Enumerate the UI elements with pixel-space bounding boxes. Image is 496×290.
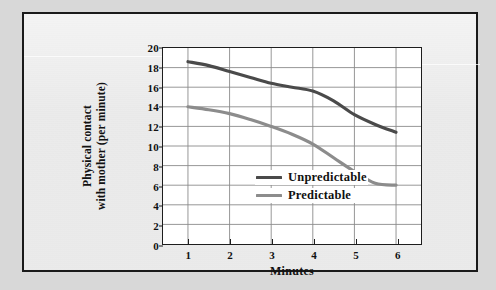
legend-item[interactable]: Unpredictable [255,170,368,185]
x-tick-label: 2 [227,249,233,261]
y-tick-label: 10 [148,141,159,153]
y-tick-label: 20 [148,42,159,54]
line-chart: Physical contact with mother (per minute… [140,42,440,277]
y-tick-mark [159,166,163,167]
y-tick-label: 18 [148,62,159,74]
y-tick-mark [159,186,163,187]
x-tick-mark [398,239,399,244]
x-tick-label: 5 [353,249,359,261]
y-tick-mark [159,226,163,227]
x-tick-mark [272,239,273,244]
figure-page: Physical contact with mother (per minute… [0,0,496,290]
plot-area: 02468101214161820 123456 UnpredictablePr… [162,47,422,245]
legend-line-swatch-icon [256,194,282,198]
y-tick-mark [159,127,163,128]
legend-line-swatch-icon [256,176,282,180]
figure-frame: Physical contact with mother (per minute… [22,12,478,272]
x-tick-label: 4 [311,249,317,261]
x-tick-label: 6 [395,249,401,261]
y-axis-title-line1: Physical contact [81,82,95,210]
y-tick-mark [159,107,163,108]
x-tick-mark [188,239,189,244]
x-tick-label: 1 [185,249,191,261]
y-axis-title-line2: with mother (per minute) [95,82,109,210]
y-tick-mark [159,48,163,49]
legend-item-label: Predictable [288,188,351,203]
x-tick-mark [230,239,231,244]
x-axis-title: Minutes [162,264,422,279]
y-tick-mark [159,206,163,207]
y-tick-mark [159,246,163,247]
chart-legend: UnpredictablePredictable [255,170,368,203]
y-tick-mark [159,87,163,88]
y-tick-label: 12 [148,121,159,133]
y-tick-mark [159,67,163,68]
y-tick-label: 16 [148,82,159,94]
y-axis-title: Physical contact with mother (per minute… [78,47,112,245]
legend-item[interactable]: Predictable [255,188,368,203]
x-tick-mark [356,239,357,244]
y-tick-mark [159,147,163,148]
series-curves [163,48,421,244]
x-tick-mark [314,239,315,244]
legend-item-label: Unpredictable [288,170,367,185]
y-tick-label: 14 [148,101,159,113]
x-tick-label: 3 [269,249,275,261]
